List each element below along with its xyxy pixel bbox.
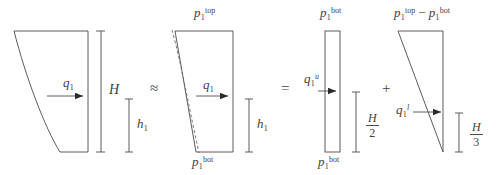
dimension-bracket-H-over-2	[352, 92, 360, 152]
dimension-bracket-H	[96, 31, 105, 152]
fraction-H-over-3: H 3	[470, 121, 483, 149]
label-q1-u-panel3: q1u	[304, 72, 319, 88]
panel-uniform-rectangular-component	[318, 31, 360, 152]
label-p1-bot-panel2: p1bot	[192, 155, 213, 171]
label-h1-panel1: h1	[137, 117, 148, 133]
operator-equals: =	[281, 80, 289, 97]
rectangle-outline	[325, 31, 340, 152]
label-p1-bot-top-panel3: p1bot	[320, 6, 341, 22]
pressure-decomposition-figure: q1 H h1 ≈ p1top q1 p1bot h1 = p1bot q1u …	[0, 0, 499, 175]
label-q1-panel1: q1	[63, 76, 74, 92]
label-p1-top-panel2: p1top	[194, 6, 215, 22]
label-p1-top-minus-p1-bot-panel4: p1top−p1bot	[394, 6, 450, 22]
operator-plus: +	[382, 80, 390, 97]
label-q1-panel2: q1	[203, 78, 214, 94]
dimension-bracket-h1-2	[245, 99, 253, 152]
label-q1-l-panel4: q1l	[396, 103, 409, 119]
label-p1-bot-bottom-panel3: p1bot	[318, 155, 339, 171]
operator-approx-equals: ≈	[150, 80, 158, 97]
dimension-bracket-h1	[125, 99, 133, 152]
label-H-panel1: H	[109, 83, 119, 97]
fraction-H-over-2: H 2	[366, 112, 379, 140]
panel-triangular-component	[398, 31, 463, 152]
diagram-canvas	[0, 0, 499, 175]
triangle-outline	[398, 31, 443, 152]
label-h1-panel2: h1	[257, 117, 268, 133]
curved-pressure-outline	[14, 31, 88, 152]
dimension-bracket-H-over-3	[455, 113, 463, 152]
